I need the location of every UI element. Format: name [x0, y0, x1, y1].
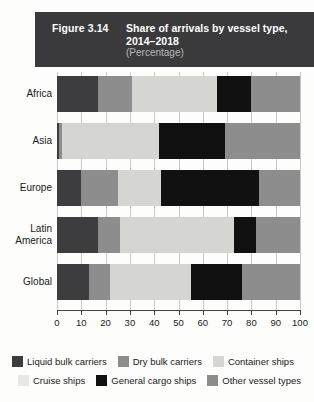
bar-segment-liquid-bulk-carriers: [57, 76, 98, 112]
chart-row-latin-america: LatinAmerica: [0, 217, 314, 253]
x-axis-tick-label: 30: [117, 317, 143, 328]
x-axis-tick-label: 50: [166, 317, 192, 328]
legend-label: Container ships: [228, 356, 294, 367]
bar-segment-other-vessel-types: [242, 264, 300, 300]
bar-segment-other-vessel-types: [259, 170, 300, 206]
x-axis: 0102030405060708090100: [0, 310, 314, 336]
category-label: Europe: [0, 182, 52, 194]
x-axis-tick-label: 40: [141, 317, 167, 328]
x-axis-tick: [300, 310, 301, 315]
legend-label: Liquid bulk carriers: [27, 356, 107, 367]
stacked-bar: [57, 123, 300, 159]
x-axis-tick-label: 70: [214, 317, 240, 328]
category-label: Africa: [0, 88, 52, 100]
chart-legend: Liquid bulk carriersDry bulk carriersCon…: [12, 352, 304, 394]
legend-item-container-ships[interactable]: Container ships: [213, 356, 294, 367]
stacked-bar: [57, 264, 300, 300]
x-axis-tick: [57, 310, 58, 315]
legend-swatch-icon: [18, 375, 29, 386]
figure-header: Figure 3.14 Share of arrivals by vessel …: [35, 12, 314, 67]
bar-segment-dry-bulk-carriers: [98, 217, 120, 253]
chart-row-global: Global: [0, 264, 314, 300]
x-axis-tick-label: 80: [238, 317, 264, 328]
x-axis-tick-label: 20: [93, 317, 119, 328]
x-axis-tick-label: 0: [44, 317, 70, 328]
category-label: LatinAmerica: [0, 223, 52, 246]
bar-segment-liquid-bulk-carriers: [57, 170, 81, 206]
bar-segment-other-vessel-types: [251, 76, 300, 112]
bar-segment-container-ships: [120, 217, 234, 253]
legend-label: Dry bulk carriers: [133, 356, 202, 367]
bar-segment-container-ships: [62, 123, 159, 159]
x-axis-tick: [179, 310, 180, 315]
legend-item-liquid-bulk-carriers[interactable]: Liquid bulk carriers: [12, 356, 107, 367]
legend-label: Cruise ships: [33, 375, 85, 386]
chart-row-asia: Asia: [0, 123, 314, 159]
x-axis-tick-label: 60: [190, 317, 216, 328]
bar-segment-general-cargo-ships: [217, 76, 251, 112]
legend-swatch-icon: [12, 356, 23, 367]
category-label: Asia: [0, 135, 52, 147]
x-axis-tick: [203, 310, 204, 315]
legend-swatch-icon: [207, 375, 218, 386]
chart-row-europe: Europe: [0, 170, 314, 206]
bar-segment-dry-bulk-carriers: [81, 170, 117, 206]
x-axis-tick: [81, 310, 82, 315]
legend-label: General cargo ships: [111, 375, 196, 386]
bar-segment-dry-bulk-carriers: [89, 264, 111, 300]
figure-title: Share of arrivals by vessel type, 2014–2…: [126, 22, 310, 47]
stacked-bar: [57, 76, 300, 112]
x-axis-tick: [227, 310, 228, 315]
x-axis-tick: [276, 310, 277, 315]
figure-subtitle: (Percentage): [126, 47, 184, 58]
bar-segment-general-cargo-ships: [161, 170, 258, 206]
bar-segment-container-ships: [110, 264, 190, 300]
bar-segment-container-ships: [132, 76, 217, 112]
x-axis-tick-label: 10: [68, 317, 94, 328]
bar-segment-general-cargo-ships: [234, 217, 256, 253]
bar-segment-container-ships: [118, 170, 162, 206]
bar-segment-other-vessel-types: [225, 123, 300, 159]
x-axis-tick: [154, 310, 155, 315]
figure-number: Figure 3.14: [52, 22, 109, 34]
x-axis-tick: [130, 310, 131, 315]
stacked-bar: [57, 217, 300, 253]
bar-segment-liquid-bulk-carriers: [57, 264, 89, 300]
x-axis-tick-label: 90: [263, 317, 289, 328]
legend-swatch-icon: [118, 356, 129, 367]
legend-item-other-vessel-types[interactable]: Other vessel types: [207, 375, 301, 386]
bar-segment-general-cargo-ships: [159, 123, 225, 159]
bar-segment-other-vessel-types: [256, 217, 300, 253]
legend-item-dry-bulk-carriers[interactable]: Dry bulk carriers: [118, 356, 202, 367]
legend-row-1: Liquid bulk carriersDry bulk carriersCon…: [12, 352, 304, 371]
stacked-bar: [57, 170, 300, 206]
category-label: Global: [0, 276, 52, 288]
legend-row-2: Cruise shipsGeneral cargo shipsOther ves…: [12, 371, 304, 390]
legend-swatch-icon: [96, 375, 107, 386]
x-axis-tick: [251, 310, 252, 315]
bar-segment-general-cargo-ships: [191, 264, 242, 300]
x-axis-tick-label: 100: [287, 317, 313, 328]
legend-label: Other vessel types: [222, 375, 301, 386]
legend-item-general-cargo-ships[interactable]: General cargo ships: [96, 375, 196, 386]
chart-row-africa: Africa: [0, 76, 314, 112]
bar-segment-liquid-bulk-carriers: [57, 217, 98, 253]
legend-swatch-icon: [213, 356, 224, 367]
bar-segment-dry-bulk-carriers: [98, 76, 132, 112]
x-axis-tick: [106, 310, 107, 315]
legend-item-cruise-ships[interactable]: Cruise ships: [18, 375, 85, 386]
chart-plot-area: AfricaAsiaEuropeLatinAmericaGlobal: [0, 72, 314, 310]
